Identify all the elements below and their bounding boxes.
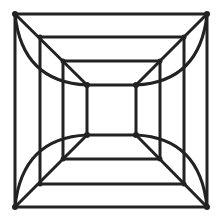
vertex-second-br (182, 182, 187, 187)
vertex-inner-tr (133, 82, 139, 88)
diagram-canvas (0, 0, 221, 222)
vertex-third-br (158, 157, 163, 162)
vertex-inner-bl (84, 132, 90, 138)
vertex-third-tr (158, 59, 163, 64)
vertex-second-tr (182, 35, 187, 40)
vertex-outer-tr (204, 11, 210, 17)
vertex-inner-br (133, 132, 139, 138)
vertex-third-bl (61, 157, 66, 162)
nested-squares-diagram (0, 0, 221, 222)
vertex-inner-tl (84, 82, 90, 88)
inner-square (87, 85, 136, 135)
vertex-second-tl (38, 35, 43, 40)
vertex-second-bl (38, 182, 43, 187)
vertex-third-tl (61, 59, 66, 64)
vertex-outer-tl (12, 11, 18, 17)
vertex-outer-bl (12, 204, 18, 210)
vertex-outer-br (204, 204, 210, 210)
